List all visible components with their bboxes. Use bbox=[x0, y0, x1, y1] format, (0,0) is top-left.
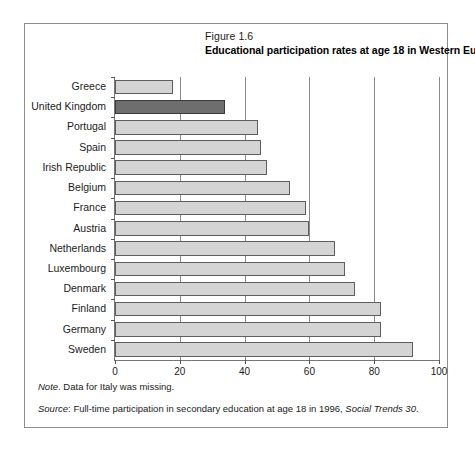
category-label: United Kingdom bbox=[31, 98, 106, 115]
y-tick bbox=[111, 259, 115, 260]
bar bbox=[115, 282, 355, 297]
category-label: Luxembourg bbox=[48, 260, 106, 277]
bar-row: Denmark bbox=[115, 279, 439, 299]
y-tick bbox=[111, 279, 115, 280]
figure-frame: Figure 1.6 Educational participation rat… bbox=[24, 23, 448, 428]
bar bbox=[115, 342, 413, 357]
bar-row: Netherlands bbox=[115, 239, 439, 259]
bar bbox=[115, 322, 381, 337]
bar-row: Sweden bbox=[115, 340, 439, 360]
x-tick-label-60: 60 bbox=[304, 366, 315, 377]
category-label: France bbox=[73, 199, 106, 216]
y-tick bbox=[111, 320, 115, 321]
x-tick-80 bbox=[374, 360, 375, 364]
bar bbox=[115, 100, 225, 115]
figure-number: Figure 1.6 bbox=[205, 30, 445, 43]
category-label: Denmark bbox=[63, 280, 106, 297]
category-label: Greece bbox=[72, 78, 106, 95]
category-label: Austria bbox=[73, 220, 106, 237]
note-label: Note bbox=[38, 381, 58, 392]
y-tick bbox=[111, 178, 115, 179]
y-tick bbox=[111, 77, 115, 78]
category-label: Sweden bbox=[68, 341, 106, 358]
x-tick-label-100: 100 bbox=[431, 366, 448, 377]
x-tick-label-80: 80 bbox=[369, 366, 380, 377]
category-label: Netherlands bbox=[49, 240, 106, 257]
bar-row: Spain bbox=[115, 138, 439, 158]
bar bbox=[115, 140, 261, 155]
y-tick bbox=[111, 138, 115, 139]
bar bbox=[115, 241, 335, 256]
bar-row: Portugal bbox=[115, 117, 439, 137]
bar bbox=[115, 201, 306, 216]
bar bbox=[115, 302, 381, 317]
bar-row: Belgium bbox=[115, 178, 439, 198]
category-label: Portugal bbox=[67, 118, 106, 135]
bar bbox=[115, 80, 173, 95]
source-line: Source: Full-time participation in secon… bbox=[38, 402, 438, 415]
bar-row: United Kingdom bbox=[115, 97, 439, 117]
y-tick bbox=[111, 198, 115, 199]
figure-footer: Note. Data for Italy was missing. Source… bbox=[38, 380, 438, 415]
bar-row: Germany bbox=[115, 320, 439, 340]
note-line: Note. Data for Italy was missing. bbox=[38, 380, 438, 393]
x-tick-label-40: 40 bbox=[239, 366, 250, 377]
y-tick bbox=[111, 239, 115, 240]
category-label: Germany bbox=[63, 321, 106, 338]
bar-row: Greece bbox=[115, 77, 439, 97]
x-tick-100 bbox=[439, 360, 440, 364]
y-tick bbox=[111, 158, 115, 159]
bar-row: Luxembourg bbox=[115, 259, 439, 279]
x-tick-40 bbox=[245, 360, 246, 364]
source-label: Source bbox=[38, 403, 68, 414]
x-tick-20 bbox=[180, 360, 181, 364]
category-label: Finland bbox=[72, 300, 106, 317]
gridline-100 bbox=[439, 77, 440, 360]
category-label: Spain bbox=[79, 139, 106, 156]
bar-row: Irish Republic bbox=[115, 158, 439, 178]
bar bbox=[115, 262, 345, 277]
bar bbox=[115, 120, 258, 135]
chart-plot-area: 020406080100GreeceUnited KingdomPortugal… bbox=[114, 77, 439, 361]
source-text: : Full-time participation in secondary e… bbox=[68, 403, 345, 414]
bar bbox=[115, 160, 267, 175]
bar-row: Austria bbox=[115, 219, 439, 239]
category-label: Irish Republic bbox=[42, 159, 106, 176]
bar-row: France bbox=[115, 198, 439, 218]
bar bbox=[115, 221, 309, 236]
x-tick-label-20: 20 bbox=[174, 366, 185, 377]
x-tick-label-0: 0 bbox=[112, 366, 118, 377]
y-tick bbox=[111, 219, 115, 220]
y-tick bbox=[111, 97, 115, 98]
figure-title: Educational participation rates at age 1… bbox=[205, 43, 445, 57]
x-tick-0 bbox=[115, 360, 116, 364]
category-label: Belgium bbox=[68, 179, 106, 196]
source-publication: Social Trends 30 bbox=[345, 403, 416, 414]
source-end: . bbox=[416, 403, 419, 414]
x-tick-60 bbox=[309, 360, 310, 364]
y-tick bbox=[111, 299, 115, 300]
title-block: Figure 1.6 Educational participation rat… bbox=[205, 30, 445, 57]
bar-row: Finland bbox=[115, 299, 439, 319]
y-tick bbox=[111, 117, 115, 118]
note-text: . Data for Italy was missing. bbox=[58, 381, 174, 392]
bar bbox=[115, 181, 290, 196]
y-tick bbox=[111, 340, 115, 341]
